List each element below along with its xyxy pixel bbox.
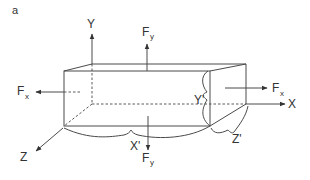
svg-text:F: F (142, 25, 149, 39)
y-axis-label: Y (87, 17, 95, 31)
fx-right-label: F x (272, 81, 284, 98)
svg-text:F: F (272, 81, 279, 95)
svg-text:x: x (25, 92, 29, 101)
svg-text:x: x (280, 89, 284, 98)
svg-text:y: y (150, 158, 154, 167)
svg-text:y: y (150, 32, 154, 41)
hidden-depth-edge (64, 104, 92, 126)
z-axis-arrow (36, 128, 63, 151)
top-right-depth-edge (210, 64, 246, 71)
front-face (64, 71, 210, 126)
fy-down-label: F y (142, 151, 154, 167)
fx-left-label: F x (17, 84, 29, 101)
z-prime-brace (211, 106, 248, 133)
beam-diagram: a Y X Z F y F y F x (0, 0, 310, 180)
x-axis-label: X (288, 97, 296, 111)
top-left-depth-edge (64, 64, 92, 71)
y-prime-label: Y' (194, 93, 204, 107)
z-prime-label: Z' (232, 132, 242, 146)
hidden-edges (64, 64, 246, 126)
panel-label: a (12, 4, 19, 16)
svg-text:F: F (17, 84, 24, 98)
x-prime-label: X' (130, 139, 140, 153)
x-prime-brace (64, 126, 210, 138)
svg-text:F: F (142, 151, 149, 165)
fy-up-label: F y (142, 25, 154, 41)
z-axis-label: Z (20, 150, 27, 164)
box-outline (64, 64, 246, 126)
